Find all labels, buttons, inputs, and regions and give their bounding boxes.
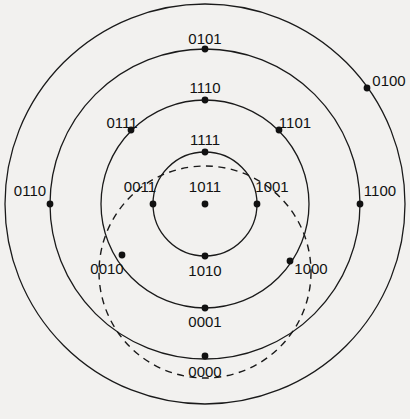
node-label-1001: 1001 xyxy=(255,179,288,194)
node-dot-0100 xyxy=(364,85,371,92)
node-label-0100: 0100 xyxy=(372,73,405,88)
node-label-1101: 1101 xyxy=(279,115,311,130)
node-label-0101: 0101 xyxy=(188,31,221,46)
node-label-1010: 1010 xyxy=(188,263,221,278)
node-label-1011: 1011 xyxy=(189,179,221,194)
node-dot-1111 xyxy=(202,149,209,156)
node-dot-0001 xyxy=(202,305,209,312)
node-dot-0000 xyxy=(202,353,209,360)
node-dot-1010 xyxy=(202,253,209,260)
node-label-0111: 0111 xyxy=(106,115,137,130)
node-dot-1001 xyxy=(254,201,261,208)
node-label-0011: 0011 xyxy=(124,179,156,194)
diagram-canvas: 1011111100111001101011100111110100010101… xyxy=(0,0,410,419)
node-label-0110: 0110 xyxy=(14,183,46,198)
node-label-1000: 1000 xyxy=(294,261,327,276)
node-dot-1000 xyxy=(287,258,294,265)
node-label-0010: 0010 xyxy=(90,261,123,276)
node-dot-1011 xyxy=(202,201,209,208)
node-dot-1100 xyxy=(357,201,364,208)
node-label-1111: 1111 xyxy=(190,132,220,147)
node-dot-1110 xyxy=(202,97,209,104)
node-label-0000: 0000 xyxy=(188,364,221,379)
node-dot-0101 xyxy=(202,46,209,53)
concentric-ring-diagram xyxy=(0,0,410,419)
node-dot-0010 xyxy=(119,252,126,259)
node-dot-0110 xyxy=(47,201,54,208)
node-label-0001: 0001 xyxy=(188,314,221,329)
node-dot-0011 xyxy=(150,201,157,208)
node-label-1110: 1110 xyxy=(189,80,220,95)
node-label-1100: 1100 xyxy=(364,183,396,198)
